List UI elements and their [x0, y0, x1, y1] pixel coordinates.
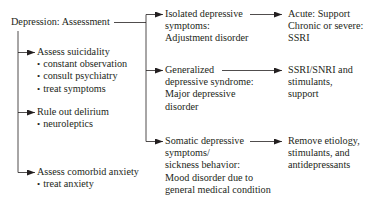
left-branch-suicidality: Assess suicidality constant observation …: [37, 46, 127, 95]
bullet-item: neuroleptics: [37, 118, 109, 130]
bullet-item: constant observation: [37, 58, 127, 70]
middle-node-somatic: Somatic depressive symptoms/ sickness be…: [165, 135, 271, 196]
treatment-line: antidepressants: [288, 159, 360, 171]
node-line: sickness behavior:: [165, 159, 271, 171]
node-line: Adjustment disorder: [165, 32, 248, 44]
node-line: depressive syndrome:: [165, 76, 254, 88]
middle-node-isolated: Isolated depressive symptoms: Adjustment…: [165, 8, 248, 45]
treatment-line: support: [288, 88, 353, 100]
middle-node-generalized: Generalized depressive syndrome: Major d…: [165, 64, 254, 113]
branch-label: Rule out delirium: [37, 106, 109, 118]
treatment-generalized: SSRI/SNRI and stimulants, support: [288, 64, 353, 101]
treatment-line: Chronic or severe:: [288, 20, 363, 32]
treatment-line: SSRI: [288, 32, 363, 44]
branch-label: Assess suicidality: [37, 46, 127, 58]
node-line: Somatic depressive: [165, 135, 271, 147]
bullet-item: treat symptoms: [37, 83, 127, 95]
branch-label: Assess comorbid anxiety: [37, 166, 139, 178]
node-line: Major depressive: [165, 88, 254, 100]
left-branch-delirium: Rule out delirium neuroleptics: [37, 106, 109, 130]
treatment-isolated: Acute: Support Chronic or severe: SSRI: [288, 8, 363, 45]
node-line: symptoms/: [165, 147, 271, 159]
treatment-line: stimulants,: [288, 76, 353, 88]
node-line: symptoms:: [165, 20, 248, 32]
root-node-label: Depression: Assessment: [11, 16, 110, 28]
treatment-somatic: Remove etiology, stimulants, and antidep…: [288, 135, 360, 172]
node-line: Mood disorder due to: [165, 172, 271, 184]
treatment-line: Remove etiology,: [288, 135, 360, 147]
treatment-line: SSRI/SNRI and: [288, 64, 353, 76]
node-line: disorder: [165, 101, 254, 113]
treatment-line: Acute: Support: [288, 8, 363, 20]
bullet-item: treat anxiety: [37, 178, 139, 190]
node-line: Isolated depressive: [165, 8, 248, 20]
node-line: Generalized: [165, 64, 254, 76]
treatment-line: stimulants, and: [288, 147, 360, 159]
bullet-item: consult psychiatry: [37, 70, 127, 82]
left-branch-anxiety: Assess comorbid anxiety treat anxiety: [37, 166, 139, 190]
node-line: general medical condition: [165, 184, 271, 196]
